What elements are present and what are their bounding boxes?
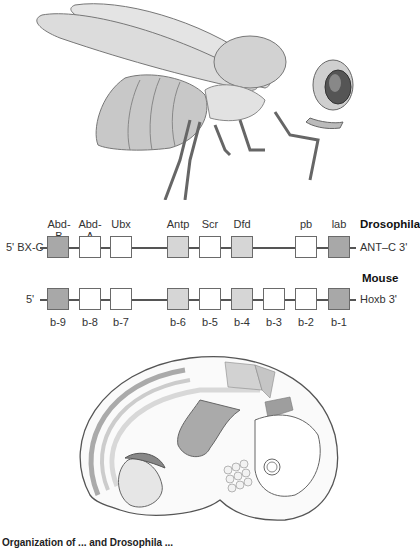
- gene-label-b-8: b-8: [75, 316, 105, 328]
- drosophila-species-label: Drosophila: [360, 218, 420, 230]
- gene-label-b-2: b-2: [291, 316, 321, 328]
- gene-label-ubx: Ubx: [106, 218, 136, 230]
- drosophila-right-end-label: ANT–C 3': [360, 241, 407, 253]
- gene-box-ubx: [110, 236, 132, 258]
- gene-box-b-8: [79, 288, 101, 310]
- gene-box-abd-b: [47, 236, 69, 258]
- gene-label-b-6: b-6: [163, 316, 193, 328]
- gene-label-pb: pb: [291, 218, 321, 230]
- gene-box-b-5: [199, 288, 221, 310]
- gene-box-scr: [199, 236, 221, 258]
- gene-box-b-9: [47, 288, 69, 310]
- gene-label-scr: Scr: [195, 218, 225, 230]
- fly-legs: [165, 112, 318, 200]
- gene-box-b-1: [328, 288, 350, 310]
- figure-caption: Organization of ... and Drosophila ...: [2, 537, 173, 548]
- gene-box-antp: [167, 236, 189, 258]
- gene-label-b-7: b-7: [106, 316, 136, 328]
- gene-box-b-6: [167, 288, 189, 310]
- gene-box-b-7: [110, 288, 132, 310]
- gene-label-b-5: b-5: [195, 316, 225, 328]
- embryo-eye: [264, 459, 280, 475]
- gene-label-b-3: b-3: [259, 316, 289, 328]
- fly-thorax: [214, 36, 286, 88]
- gene-label-b-4: b-4: [227, 316, 257, 328]
- gene-box-lab: [328, 236, 350, 258]
- gene-label-dfd: Dfd: [227, 218, 257, 230]
- gene-label-b-1: b-1: [324, 316, 354, 328]
- drosophila-left-end-label: 5' BX-C: [6, 241, 44, 253]
- gene-box-abd-a: [79, 236, 101, 258]
- drosophila-illustration: [0, 0, 419, 200]
- gene-label-lab: lab: [324, 218, 354, 230]
- gene-box-b-4: [231, 288, 253, 310]
- gene-box-dfd: [231, 236, 253, 258]
- gene-box-b-2: [295, 288, 317, 310]
- mouse-embryo-illustration: [0, 340, 419, 535]
- gene-box-b-3: [263, 288, 285, 310]
- mouse-right-end-label: Hoxb 3': [360, 293, 397, 305]
- gene-label-b-9: b-9: [43, 316, 73, 328]
- mouse-species-label: Mouse: [362, 272, 398, 284]
- fly-abdomen: [96, 75, 207, 150]
- gene-label-antp: Antp: [163, 218, 193, 230]
- mouse-left-end-label: 5': [26, 293, 34, 305]
- gene-box-pb: [295, 236, 317, 258]
